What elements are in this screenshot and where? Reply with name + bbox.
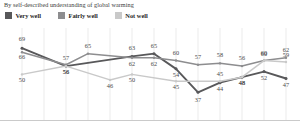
data-point — [263, 59, 265, 61]
chart-container: By self-described understanding of globa… — [0, 0, 300, 132]
data-label: 56 — [239, 54, 245, 61]
data-point — [175, 59, 177, 61]
data-label: 65 — [151, 42, 157, 49]
data-label: 45 — [173, 83, 179, 90]
data-label: 63 — [129, 44, 135, 51]
page-title: By self-described understanding of globa… — [4, 1, 134, 8]
data-label: 66 — [19, 53, 25, 60]
data-label: 56 — [63, 68, 69, 75]
line-chart-svg: 6956636554374448524766576562626057585660… — [0, 26, 300, 132]
data-point — [87, 52, 89, 54]
data-label: 46 — [107, 82, 113, 89]
data-point — [21, 73, 23, 75]
data-point — [241, 76, 243, 78]
data-point — [285, 61, 287, 63]
data-point — [197, 91, 200, 94]
data-point — [131, 73, 133, 75]
legend-item-2[interactable]: Not well — [115, 12, 148, 19]
data-label: 47 — [283, 81, 289, 88]
data-point — [153, 52, 156, 55]
data-label: 57 — [195, 53, 201, 60]
data-label: 54 — [173, 71, 180, 78]
data-label: 37 — [195, 96, 201, 103]
data-label: 44 — [217, 85, 224, 92]
chart-legend: Very well Fairly well Not well — [5, 12, 165, 19]
data-label: 62 — [129, 60, 135, 67]
data-label: 65 — [85, 42, 91, 49]
data-point — [109, 79, 111, 81]
data-label: 50 — [19, 76, 25, 83]
legend-swatch-fairly-well — [58, 12, 65, 19]
data-point — [153, 57, 155, 59]
data-label: 62 — [151, 60, 157, 67]
data-point — [241, 65, 243, 67]
data-label: 60 — [173, 49, 179, 56]
data-point — [65, 65, 67, 67]
legend-swatch-not-well — [115, 12, 122, 19]
data-point — [219, 80, 221, 82]
data-label: 59 — [283, 51, 289, 58]
data-point — [219, 62, 221, 64]
data-label: 58 — [217, 51, 223, 58]
data-point — [197, 64, 199, 66]
legend-label-fairly-well: Fairly well — [69, 12, 98, 19]
data-label: 57 — [63, 54, 69, 61]
data-label: 60 — [261, 50, 267, 57]
data-label: 45 — [217, 70, 223, 77]
data-label: 50 — [129, 76, 135, 83]
data-label: 48 — [239, 79, 245, 86]
data-label: 69 — [19, 35, 25, 42]
data-point — [175, 80, 177, 82]
legend-item-1[interactable]: Fairly well — [58, 12, 98, 19]
legend-label-very-well: Very well — [16, 12, 42, 19]
legend-item-0[interactable]: Very well — [5, 12, 41, 19]
plot-area: 6956636554374448524766576562626057585660… — [0, 26, 300, 132]
data-label: 52 — [261, 74, 267, 81]
data-point — [131, 57, 133, 59]
legend-label-not-well: Not well — [125, 12, 148, 19]
data-point — [21, 47, 24, 50]
legend-swatch-very-well — [5, 12, 12, 19]
